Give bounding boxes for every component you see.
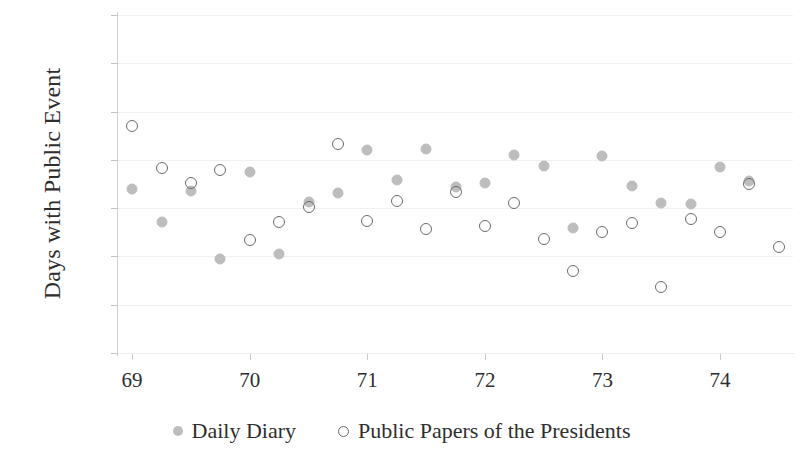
data-point-open xyxy=(391,195,403,207)
x-axis-tick xyxy=(602,353,603,360)
x-axis-tick-label: 71 xyxy=(357,368,378,393)
data-point-open xyxy=(156,162,168,174)
filled-circle-icon xyxy=(173,426,183,436)
gridline xyxy=(118,112,793,113)
data-point-filled xyxy=(156,216,167,227)
data-point-filled xyxy=(509,149,520,160)
chart-legend: Daily DiaryPublic Papers of the Presiden… xyxy=(0,418,803,444)
data-point-open xyxy=(332,138,344,150)
y-axis-title: Days with Public Event xyxy=(39,14,66,354)
data-point-filled xyxy=(479,178,490,189)
legend-item-label: Daily Diary xyxy=(192,418,296,444)
x-axis-tick-label: 70 xyxy=(239,368,260,393)
x-axis-tick xyxy=(367,353,368,360)
data-point-open xyxy=(626,217,638,229)
data-point-filled xyxy=(626,180,637,191)
data-point-filled xyxy=(127,183,138,194)
open-circle-icon xyxy=(338,426,349,437)
plot-area xyxy=(118,15,793,353)
data-point-filled xyxy=(538,160,549,171)
x-axis-tick xyxy=(250,353,251,360)
data-point-open xyxy=(567,265,579,277)
data-point-filled xyxy=(685,198,696,209)
data-point-filled xyxy=(244,166,255,177)
data-point-open xyxy=(244,234,256,246)
x-axis-tick xyxy=(720,353,721,360)
legend-item[interactable]: Public Papers of the Presidents xyxy=(338,418,631,444)
data-point-filled xyxy=(421,144,432,155)
x-axis-tick-label: 73 xyxy=(592,368,613,393)
x-axis-tick-label: 69 xyxy=(122,368,143,393)
x-axis-tick xyxy=(485,353,486,360)
data-point-filled xyxy=(274,248,285,259)
data-point-filled xyxy=(332,187,343,198)
data-point-filled xyxy=(362,144,373,155)
data-point-open xyxy=(538,233,550,245)
x-axis-tick-label: 74 xyxy=(710,368,731,393)
data-point-filled xyxy=(215,253,226,264)
data-point-filled xyxy=(568,222,579,233)
data-point-open xyxy=(214,164,226,176)
data-point-filled xyxy=(715,161,726,172)
gridline xyxy=(118,353,793,354)
x-axis-tick-label: 72 xyxy=(474,368,495,393)
data-point-filled xyxy=(597,150,608,161)
data-point-filled xyxy=(656,198,667,209)
legend-item-label: Public Papers of the Presidents xyxy=(358,418,631,444)
data-point-open xyxy=(185,177,197,189)
gridline xyxy=(118,305,793,306)
x-axis-tick xyxy=(132,353,133,360)
data-point-filled xyxy=(391,175,402,186)
gridline xyxy=(118,63,793,64)
data-point-open xyxy=(126,120,138,132)
data-point-open xyxy=(685,213,697,225)
data-point-open xyxy=(479,220,491,232)
data-point-open xyxy=(450,186,462,198)
gridline xyxy=(118,160,793,161)
gridline xyxy=(118,15,793,16)
data-point-open xyxy=(303,201,315,213)
data-point-open xyxy=(655,281,667,293)
data-point-open xyxy=(743,178,755,190)
data-point-open xyxy=(508,197,520,209)
data-point-open xyxy=(714,226,726,238)
legend-item[interactable]: Daily Diary xyxy=(173,418,296,444)
data-point-open xyxy=(420,223,432,235)
scatter-chart: Days with Public Event 70%60%50%40%30%20… xyxy=(0,0,803,457)
data-point-open xyxy=(361,215,373,227)
data-point-open xyxy=(773,241,785,253)
data-point-open xyxy=(273,216,285,228)
data-point-open xyxy=(596,226,608,238)
